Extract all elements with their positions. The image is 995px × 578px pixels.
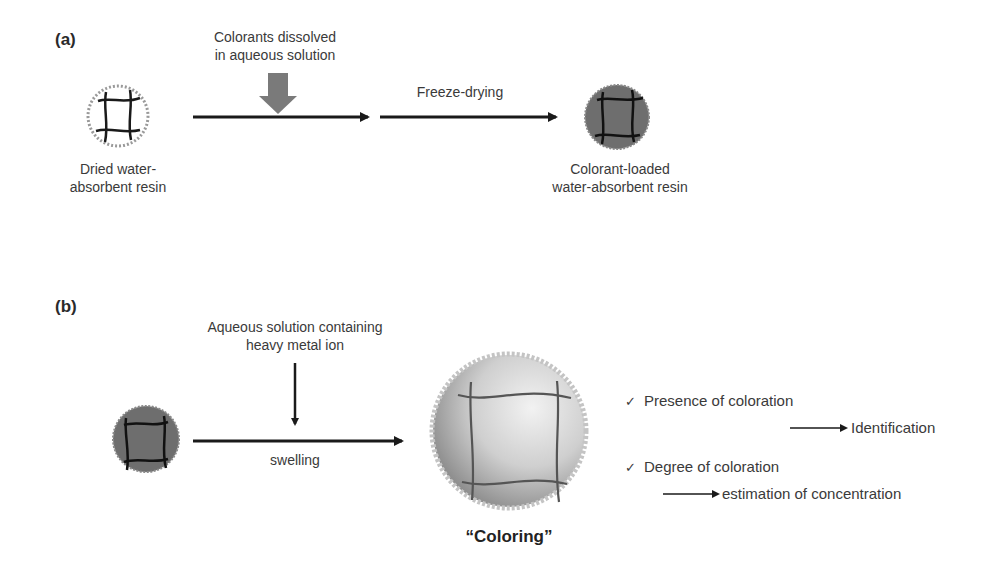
loaded-resin-small-icon	[113, 406, 179, 472]
outcome-identification: Identification	[851, 419, 935, 437]
panel-a-label: (a)	[55, 30, 76, 50]
dried-resin-line1: Dried water-	[58, 160, 178, 178]
heavy-metal-line2: heavy metal ion	[195, 336, 395, 354]
swelling-label: swelling	[255, 451, 335, 469]
colorant-loaded-resin-icon	[585, 85, 649, 149]
gray-down-arrow-icon	[259, 73, 297, 114]
colorant-loaded-line2: water-absorbent resin	[540, 178, 700, 196]
heavy-metal-solution-label: Aqueous solution containing heavy metal …	[195, 318, 395, 354]
check-icon: ✓	[625, 394, 636, 409]
outcome-estimation: estimation of concentration	[722, 485, 901, 503]
colorants-dissolved-line1: Colorants dissolved	[200, 28, 350, 46]
colorant-loaded-resin-label: Colorant-loaded water-absorbent resin	[540, 160, 700, 196]
outcome-degree-text: Degree of coloration	[644, 458, 779, 475]
swollen-colored-resin-icon	[432, 354, 586, 508]
dried-resin-line2: absorbent resin	[58, 178, 178, 196]
outcome-degree: ✓Degree of coloration	[625, 458, 779, 477]
heavy-metal-line1: Aqueous solution containing	[195, 318, 395, 336]
panel-b-label: (b)	[55, 297, 77, 317]
dried-resin-label: Dried water- absorbent resin	[58, 160, 178, 196]
coloring-label: “Coloring”	[449, 527, 569, 547]
colorant-loaded-line1: Colorant-loaded	[540, 160, 700, 178]
dried-resin-icon	[88, 86, 148, 146]
colorants-dissolved-label: Colorants dissolved in aqueous solution	[200, 28, 350, 64]
check-icon: ✓	[625, 460, 636, 475]
freeze-drying-label: Freeze-drying	[400, 83, 520, 101]
colorants-dissolved-line2: in aqueous solution	[200, 46, 350, 64]
outcome-presence: ✓Presence of coloration	[625, 392, 793, 411]
outcome-presence-text: Presence of coloration	[644, 392, 793, 409]
